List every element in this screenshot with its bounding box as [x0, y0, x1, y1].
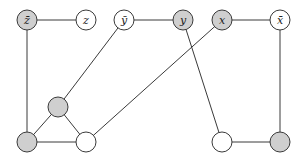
node-bottom_right_gray: [270, 132, 290, 152]
edge-y-bottom_right_white: [183, 20, 222, 142]
edges-layer: [27, 20, 280, 142]
node-bottom_left: [17, 132, 37, 152]
edge-bottom_mid-x: [86, 20, 222, 142]
node-label: y: [179, 14, 187, 27]
node-bottom_right_white: [212, 132, 232, 152]
node-circle: [212, 132, 232, 152]
node-label: z: [82, 14, 89, 27]
node-ybar: ȳ: [114, 10, 134, 30]
node-circle: [270, 132, 290, 152]
node-label: x̄: [277, 14, 284, 27]
node-label: x: [219, 14, 226, 27]
node-zbar: z̄: [17, 10, 37, 30]
edge-ybar-tri_top: [58, 20, 124, 107]
node-z: z: [76, 10, 96, 30]
node-circle: [48, 97, 68, 117]
graph-diagram: z̄zȳyxx̄: [0, 0, 305, 164]
graph-svg: z̄zȳyxx̄: [0, 0, 305, 164]
node-label: z̄: [23, 14, 30, 27]
node-circle: [76, 132, 96, 152]
node-y: y: [173, 10, 193, 30]
node-bottom_mid: [76, 132, 96, 152]
node-x: x: [212, 10, 232, 30]
node-tri_top: [48, 97, 68, 117]
node-xbar: x̄: [270, 10, 290, 30]
node-circle: [17, 132, 37, 152]
node-label: ȳ: [120, 14, 128, 27]
